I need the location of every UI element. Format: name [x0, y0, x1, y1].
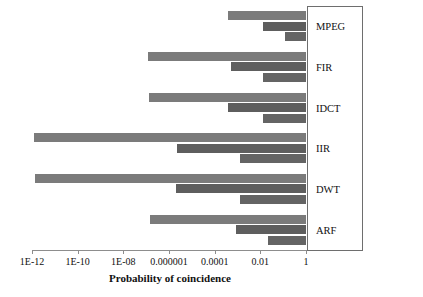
x-tick-label: 0.000001 [150, 256, 188, 267]
bar [150, 215, 306, 224]
x-tick [32, 250, 33, 254]
x-tick [78, 250, 79, 254]
category-label: MPEG [307, 6, 363, 47]
bar [263, 22, 306, 31]
bar-groups [32, 6, 306, 250]
category-label: IIR [307, 128, 363, 169]
plot-area [32, 6, 306, 250]
category-label: DWT [307, 169, 363, 210]
x-tick-label: 1E-12 [20, 256, 44, 267]
bar-group [32, 87, 306, 128]
category-label: IDCT [307, 88, 363, 129]
x-axis-title: Probability of coincidence [0, 272, 340, 284]
x-tick [215, 250, 216, 254]
x-tick-label: 1E-10 [65, 256, 89, 267]
bar [263, 73, 306, 82]
bar [268, 236, 306, 245]
bar [263, 114, 306, 123]
bar [285, 32, 306, 41]
bar-group [32, 169, 306, 210]
bar [228, 11, 306, 20]
bar [177, 144, 306, 153]
category-label: FIR [307, 47, 363, 88]
x-tick-label: 1 [304, 256, 309, 267]
x-tick-label: 0.0001 [201, 256, 229, 267]
x-tick [260, 250, 261, 254]
bar [228, 103, 306, 112]
bar-group [32, 209, 306, 250]
bar [176, 184, 306, 193]
bar [35, 174, 306, 183]
bar-group [32, 128, 306, 169]
bar [240, 154, 306, 163]
x-tick-label: 1E-08 [111, 256, 135, 267]
bar-group [32, 6, 306, 47]
category-labels: MPEGFIRIDCTIIRDWTARF [307, 6, 363, 251]
bar-chart: 1E-121E-101E-080.0000010.00010.011 Proba… [0, 0, 423, 297]
bar [231, 62, 306, 71]
bar [34, 133, 306, 142]
bar-group [32, 47, 306, 88]
category-label: ARF [307, 210, 363, 251]
x-tick [123, 250, 124, 254]
bar [148, 52, 306, 61]
x-tick [169, 250, 170, 254]
bar [149, 93, 306, 102]
bar [240, 195, 306, 204]
bar [236, 225, 306, 234]
x-tick-label: 0.01 [252, 256, 270, 267]
